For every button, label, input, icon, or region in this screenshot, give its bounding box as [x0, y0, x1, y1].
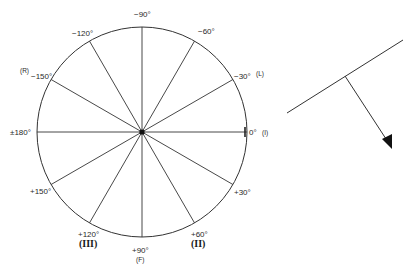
- diagram-canvas: −90° −60° −30° (L) −120° (R) −150° ±180°…: [0, 0, 411, 275]
- spoke-m60: [142, 41, 195, 132]
- spoke-m30: [142, 80, 233, 133]
- tag-II: (II): [191, 238, 205, 250]
- normal-arrow-shaft: [345, 76, 388, 142]
- label-p0: 0°: [249, 128, 257, 137]
- label-p90: +90°: [132, 246, 149, 255]
- arrowhead-icon: [382, 134, 392, 149]
- tag-III: (III): [79, 238, 97, 250]
- label-m150: −150°: [31, 72, 52, 81]
- label-m120: −120°: [72, 29, 93, 38]
- spoke-m120: [90, 41, 143, 132]
- tag-R: (R): [20, 67, 29, 75]
- spoke-p30: [142, 132, 233, 185]
- label-p150: +150°: [30, 187, 51, 196]
- label-m90: −90°: [134, 10, 151, 19]
- label-m30: −30°: [234, 72, 251, 81]
- label-p180: ±180°: [10, 128, 31, 137]
- spoke-p120: [90, 132, 143, 223]
- tag-F: (F): [136, 256, 144, 264]
- label-m60: −60°: [198, 27, 215, 36]
- center-dot: [139, 129, 144, 134]
- spoke-m150: [51, 80, 142, 133]
- label-p30: +30°: [234, 188, 251, 197]
- tag-L: (L): [256, 70, 264, 78]
- tag-I: (I): [262, 129, 268, 137]
- spoke-p150: [51, 132, 142, 185]
- spoke-p60: [142, 132, 195, 223]
